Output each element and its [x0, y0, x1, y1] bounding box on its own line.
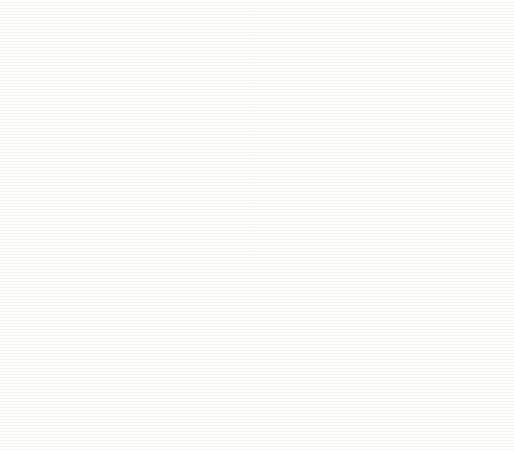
- figure-9: [272, 0, 514, 450]
- figure-8: [0, 0, 270, 450]
- figure-page: [0, 0, 514, 450]
